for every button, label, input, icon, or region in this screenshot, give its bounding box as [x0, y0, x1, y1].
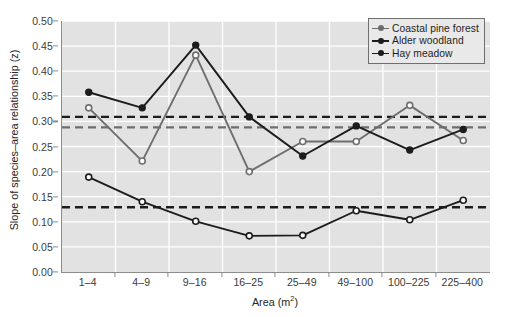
series-hay-meadow — [86, 174, 467, 239]
data-point — [407, 102, 413, 108]
data-point — [407, 217, 413, 223]
y-axis-tick-label: 0.35 — [32, 90, 53, 102]
data-point — [139, 105, 145, 111]
y-axis-tick-label: 0.05 — [32, 241, 53, 253]
data-point — [407, 147, 413, 153]
data-point — [300, 153, 306, 159]
y-axis-title: Slope of species–area relationship (z) — [8, 15, 20, 265]
legend-item-label: Coastal pine forest — [392, 23, 479, 34]
y-axis-tick-mark — [53, 46, 58, 47]
y-axis-tick-mark — [53, 246, 58, 247]
y-axis-tick-label: 0.50 — [32, 15, 53, 27]
x-axis-tick-label: 1–4 — [79, 276, 97, 288]
x-axis-tick-label: 25–49 — [287, 276, 317, 288]
legend-item-label: Alder woodland — [392, 35, 464, 46]
y-axis-tick-mark — [53, 121, 58, 122]
x-axis-tick-labels: 1–44–99–1616–2525–4949–100100–225225–400 — [61, 276, 489, 292]
y-axis-tick-mark — [53, 196, 58, 197]
legend: Coastal pine forestAlder woodlandHay mea… — [368, 18, 485, 64]
y-axis-tick-mark — [53, 96, 58, 97]
x-axis-tick-label: 225–400 — [441, 276, 483, 288]
y-axis-tick-mark — [53, 271, 58, 272]
data-point — [86, 105, 92, 111]
y-axis-tick-label: 0.15 — [32, 191, 53, 203]
legend-marker-icon — [372, 23, 389, 34]
legend-item-label: Hay meadow — [392, 48, 453, 59]
species-area-slope-chart: 0.000.050.100.150.200.250.300.350.400.45… — [0, 0, 507, 317]
series-coastal-pine-forest — [86, 52, 467, 174]
data-point — [139, 199, 145, 205]
x-axis-title-superscript: 2 — [290, 294, 294, 303]
y-axis-tick-label: 0.45 — [32, 40, 53, 52]
data-point — [353, 123, 359, 129]
y-axis-tick-label: 0.30 — [32, 115, 53, 127]
y-axis-tick-mark — [53, 171, 58, 172]
legend-marker-icon — [372, 48, 389, 59]
legend-item-coastal-pine-forest: Coastal pine forest — [372, 22, 479, 35]
x-axis-title: Area (m2) — [61, 294, 489, 308]
legend-item-hay-meadow: Hay meadow — [372, 47, 479, 60]
x-axis-tick-label: 4–9 — [132, 276, 150, 288]
data-point — [246, 169, 252, 175]
data-point — [246, 114, 252, 120]
x-axis-tick-label: 16–25 — [233, 276, 263, 288]
data-point — [353, 208, 359, 214]
y-axis-tick-mark — [53, 221, 58, 222]
data-point — [300, 232, 306, 238]
data-point — [139, 158, 145, 164]
data-point — [86, 89, 92, 95]
y-axis-tick-mark — [53, 71, 58, 72]
legend-item-alder-woodland: Alder woodland — [372, 35, 479, 48]
x-axis-tick-label: 49–100 — [337, 276, 373, 288]
data-point — [300, 138, 306, 144]
x-axis-tick-label: 9–16 — [183, 276, 207, 288]
y-axis-tick-label: 0.40 — [32, 65, 53, 77]
data-point — [353, 138, 359, 144]
y-axis-tick-label: 0.20 — [32, 166, 53, 178]
data-point — [460, 126, 466, 132]
x-axis-tick-label: 100–225 — [388, 276, 430, 288]
y-axis-tick-mark — [53, 146, 58, 147]
data-point — [460, 197, 466, 203]
data-point — [246, 233, 252, 239]
y-axis-tick-mark — [53, 20, 58, 21]
data-point — [86, 174, 92, 180]
y-axis-tick-label: 0.00 — [32, 266, 53, 278]
data-point — [193, 218, 199, 224]
y-axis-tick-label: 0.10 — [32, 216, 53, 228]
data-point — [193, 52, 199, 58]
data-point — [460, 137, 466, 143]
legend-marker-icon — [372, 35, 389, 46]
data-point — [193, 42, 199, 48]
y-axis-tick-label: 0.25 — [32, 141, 53, 153]
